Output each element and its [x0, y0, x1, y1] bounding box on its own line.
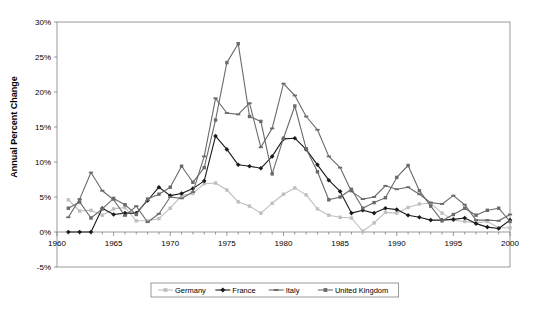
data-point: [463, 207, 466, 210]
legend-label: Germany: [175, 286, 206, 295]
data-point: [100, 190, 104, 192]
data-point: [169, 207, 172, 210]
data-point: [214, 118, 217, 121]
data-point: [203, 166, 206, 169]
data-point: [485, 219, 489, 221]
data-point: [179, 198, 183, 200]
data-point: [225, 61, 228, 64]
data-point: [213, 97, 217, 99]
data-point: [293, 95, 297, 97]
data-point: [338, 216, 341, 219]
data-point: [270, 172, 273, 175]
y-tick-label: 20%: [35, 88, 51, 97]
y-tick-label: 0%: [39, 228, 51, 237]
data-point: [372, 201, 375, 204]
data-point: [474, 214, 477, 217]
legend-label: France: [232, 286, 255, 295]
data-point: [135, 213, 138, 216]
data-point: [112, 207, 115, 210]
data-point: [191, 191, 195, 193]
data-point: [259, 211, 262, 214]
data-point: [338, 167, 342, 169]
data-point: [497, 220, 501, 222]
data-point: [361, 230, 364, 233]
data-point: [429, 204, 432, 207]
data-point: [338, 195, 341, 198]
legend-label: Italy: [286, 286, 300, 295]
y-tick-label: -5%: [37, 263, 51, 272]
x-tick-label: 1975: [218, 239, 236, 248]
data-point: [395, 211, 398, 214]
data-point: [236, 114, 240, 116]
legend: GermanyFranceItalyUnited Kingdom: [151, 283, 399, 297]
data-point: [157, 217, 160, 220]
data-point: [406, 186, 410, 188]
legend-label: United Kingdom: [335, 286, 388, 295]
data-point: [157, 193, 160, 196]
data-point: [225, 188, 228, 191]
data-point: [237, 200, 240, 203]
data-point: [508, 226, 511, 229]
data-point: [168, 196, 172, 198]
data-point: [304, 116, 308, 118]
data-point: [327, 156, 331, 158]
data-point: [101, 207, 104, 210]
data-point: [259, 120, 262, 123]
data-point: [350, 216, 353, 219]
data-point: [508, 214, 512, 216]
data-point: [237, 42, 240, 45]
data-point: [406, 164, 409, 167]
data-point: [406, 206, 409, 209]
data-point: [440, 203, 444, 205]
data-point: [202, 156, 206, 158]
data-point: [304, 147, 307, 150]
data-point: [157, 213, 161, 215]
data-point: [451, 195, 455, 197]
legend-marker: [164, 288, 168, 292]
data-point: [123, 215, 127, 217]
data-point: [395, 188, 399, 190]
data-point: [282, 193, 285, 196]
data-point: [66, 216, 70, 218]
data-point: [463, 204, 467, 206]
data-point: [169, 186, 172, 189]
data-point: [78, 209, 81, 212]
data-point: [327, 198, 330, 201]
inflation-line-chart: -5%0%5%10%15%20%25%30%196019651970197519…: [0, 0, 550, 311]
data-point: [67, 207, 70, 210]
data-point: [146, 197, 149, 200]
data-point: [508, 220, 511, 223]
data-point: [270, 128, 274, 130]
data-point: [282, 137, 285, 140]
data-point: [384, 211, 387, 214]
x-tick-label: 1960: [48, 239, 66, 248]
y-tick-label: 25%: [35, 53, 51, 62]
x-tick-label: 1970: [161, 239, 179, 248]
data-point: [112, 197, 115, 200]
data-point: [372, 196, 376, 198]
x-tick-label: 1995: [444, 239, 462, 248]
data-point: [134, 205, 138, 207]
data-point: [101, 214, 104, 217]
data-point: [281, 83, 285, 85]
data-point: [225, 112, 229, 114]
data-point: [248, 204, 251, 207]
data-point: [191, 181, 194, 184]
data-point: [384, 196, 387, 199]
data-point: [418, 189, 421, 192]
data-point: [248, 115, 251, 118]
data-point: [361, 198, 365, 200]
data-point: [89, 209, 92, 212]
data-point: [180, 165, 183, 168]
data-point: [270, 202, 273, 205]
data-point: [67, 198, 70, 201]
data-point: [372, 221, 375, 224]
x-tick-label: 1990: [388, 239, 406, 248]
data-point: [304, 193, 307, 196]
data-point: [486, 209, 489, 212]
data-point: [293, 104, 296, 107]
y-axis-title: Annual Percent Change: [9, 76, 19, 178]
legend-marker: [274, 289, 279, 291]
y-tick-label: 10%: [35, 158, 51, 167]
data-point: [293, 186, 296, 189]
